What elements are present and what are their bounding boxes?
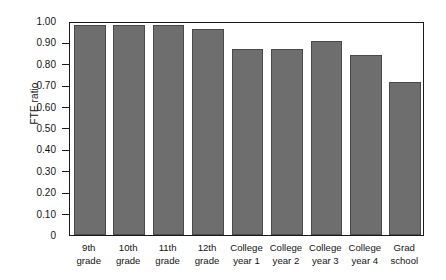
y-axis-tick-mark <box>62 214 69 215</box>
y-axis-tick-label: 0.20 <box>22 188 56 198</box>
bar <box>271 49 303 235</box>
bar-chart-figure: FTE ratio 1.000.900.800.700.600.500.400.… <box>0 0 446 280</box>
bar <box>74 25 106 235</box>
y-axis-tick-mark <box>62 193 69 194</box>
y-axis-tick-mark <box>62 86 69 87</box>
bar <box>389 82 421 235</box>
bar <box>350 55 382 235</box>
y-axis-tick-mark <box>62 107 69 108</box>
x-axis-tick-label-line: Grad <box>375 242 433 255</box>
y-axis-tick-label: 0.10 <box>22 210 56 220</box>
y-axis-tick-label: 0.70 <box>22 81 56 91</box>
bar <box>192 29 224 236</box>
bar <box>232 49 264 235</box>
y-axis-tick-mark <box>62 171 69 172</box>
y-axis-tick-mark <box>62 150 69 151</box>
y-axis-tick-mark <box>62 128 69 129</box>
y-axis-tick-mark <box>62 64 69 65</box>
y-axis-tick-label: 0.50 <box>22 124 56 134</box>
y-axis-tick-label: 0.80 <box>22 60 56 70</box>
bar <box>113 25 145 235</box>
y-axis-tick-label: 0.90 <box>22 38 56 48</box>
y-axis-tick-label: 0.60 <box>22 103 56 113</box>
plot-area <box>69 22 424 236</box>
y-axis-tick-label: 1.00 <box>22 17 56 27</box>
y-axis-tick-label: 0.40 <box>22 145 56 155</box>
bar <box>153 25 185 235</box>
bar <box>311 41 343 235</box>
y-axis-tick-mark <box>62 43 69 44</box>
x-axis-tick-label: Gradschool <box>375 242 433 267</box>
y-axis-tick-label: 0 <box>22 231 56 241</box>
x-axis-tick-label-line: school <box>375 255 433 268</box>
y-axis-tick-label: 0.30 <box>22 167 56 177</box>
